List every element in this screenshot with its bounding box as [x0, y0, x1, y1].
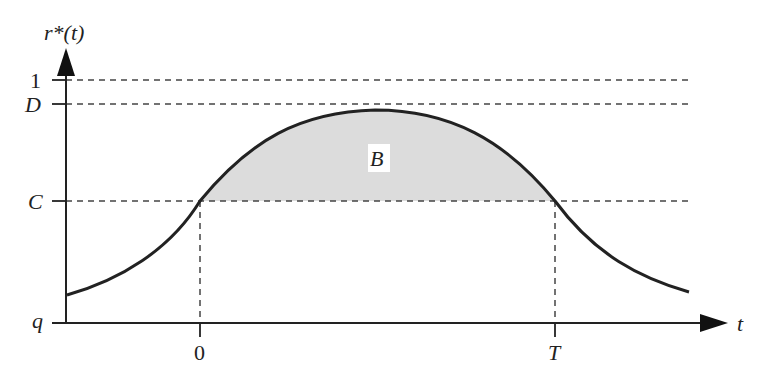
x-tick-label-0: 0	[194, 340, 205, 365]
y-axis-arrow-icon	[57, 48, 75, 76]
x-tick-label-t: T	[548, 340, 562, 365]
y-tick-label-q: q	[32, 308, 43, 333]
region-b-label: B	[370, 146, 383, 171]
x-axis-label: t	[737, 311, 744, 336]
x-axis-arrow-icon	[700, 314, 728, 332]
y-tick-label-c: C	[28, 189, 43, 214]
y-tick-label-d: D	[24, 92, 41, 117]
y-tick-label-1: 1	[30, 68, 41, 93]
diagram-canvas: r*(t) t 1 D C q 0 T B	[0, 0, 763, 374]
y-axis-label: r*(t)	[44, 20, 84, 45]
